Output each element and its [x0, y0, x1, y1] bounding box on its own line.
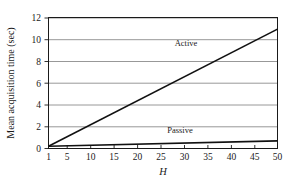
x-tick-label-1: 1 [46, 152, 51, 162]
x-tick-label-5: 5 [65, 152, 70, 162]
y-axis-title: Mean acquisition time (sec) [5, 27, 17, 138]
y-tick-label-8: 8 [36, 57, 41, 67]
y-tick-marks [45, 18, 49, 149]
x-tick-labels: 1 5 10 15 20 25 30 35 40 45 50 [46, 152, 282, 162]
y-tick-labels: 0 2 4 6 8 10 12 [32, 13, 42, 154]
data-series [49, 29, 278, 146]
chart-figure: 0 2 4 6 8 10 12 1 5 10 15 [0, 0, 296, 182]
x-tick-label-10: 10 [86, 152, 96, 162]
x-tick-label-20: 20 [133, 152, 143, 162]
y-tick-label-12: 12 [32, 13, 42, 23]
x-axis-title: H [158, 166, 168, 177]
line-chart-svg: 0 2 4 6 8 10 12 1 5 10 15 [0, 0, 296, 182]
y-tick-label-4: 4 [36, 100, 41, 110]
x-tick-label-40: 40 [227, 152, 237, 162]
y-tick-label-2: 2 [36, 122, 41, 132]
series-annotation-active: Active [175, 38, 198, 48]
x-tick-label-15: 15 [109, 152, 119, 162]
x-tick-label-35: 35 [203, 152, 213, 162]
y-tick-label-0: 0 [36, 144, 41, 154]
x-tick-label-45: 45 [250, 152, 260, 162]
x-tick-label-50: 50 [273, 152, 283, 162]
series-line-passive [49, 141, 278, 146]
y-tick-label-6: 6 [36, 79, 41, 89]
y-tick-label-10: 10 [32, 35, 42, 45]
series-annotation-passive: Passive [167, 125, 193, 135]
series-line-active [49, 29, 278, 146]
x-tick-label-25: 25 [156, 152, 166, 162]
x-tick-label-30: 30 [180, 152, 190, 162]
